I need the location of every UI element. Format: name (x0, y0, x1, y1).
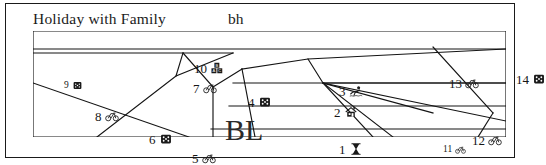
bicycle-icon (455, 144, 466, 155)
svg-text:C: C (218, 68, 221, 73)
region-number: 5 (192, 152, 199, 165)
region-6[interactable]: 6 (149, 132, 173, 146)
bicycle-icon (105, 109, 119, 123)
region-3[interactable]: 3 (339, 84, 363, 98)
region-8[interactable]: 8 (95, 109, 119, 123)
region-number: 12 (472, 134, 485, 147)
blocks-icon: ACB (210, 61, 224, 75)
region-number: 11 (443, 145, 452, 155)
map-title-row: Holiday with Family bh (33, 8, 503, 29)
region-12[interactable]: 12 (472, 133, 502, 147)
region-1[interactable]: 1 (339, 142, 363, 156)
bicycle-icon (488, 133, 502, 147)
region-10[interactable]: 10ACB (194, 61, 224, 75)
region-4[interactable]: 4 (248, 95, 272, 109)
svg-text:A: A (213, 68, 216, 73)
dice-icon (532, 72, 546, 86)
outer-frame: Holiday with Family bh BL 12345678910ACB… (5, 3, 515, 158)
region-number: 10 (194, 62, 207, 75)
dice-icon (72, 80, 83, 91)
svg-text:B: B (215, 63, 218, 68)
region-5[interactable]: 5 (192, 151, 216, 165)
region-number: 2 (334, 106, 341, 119)
region-number: 3 (339, 85, 346, 98)
region-7[interactable]: 7 (193, 81, 217, 95)
bicycle-icon (465, 76, 479, 90)
region-13[interactable]: 13 (449, 76, 479, 90)
hourglass-icon (349, 142, 363, 156)
bicycle-icon (202, 151, 216, 165)
map-subtitle: bh (228, 10, 244, 28)
region-2[interactable]: 2 (334, 105, 358, 119)
map-area[interactable]: BL 12345678910ACB11121314 (33, 31, 506, 137)
region-number: 13 (449, 77, 462, 90)
dice-icon (258, 95, 272, 109)
region-number: 7 (193, 82, 200, 95)
center-district-label: BL (225, 115, 263, 145)
region-9[interactable]: 9 (64, 80, 83, 91)
region-number: 8 (95, 110, 102, 123)
map-title: Holiday with Family (33, 10, 166, 28)
dice-icon (159, 132, 173, 146)
region-number: 4 (248, 96, 255, 109)
bicycle-icon (203, 81, 217, 95)
region-number: 6 (149, 133, 156, 146)
region-number: 9 (64, 81, 69, 91)
swimmer-icon (349, 84, 363, 98)
region-number: 14 (516, 73, 529, 86)
region-number: 1 (339, 143, 346, 156)
region-14[interactable]: 14 (516, 72, 546, 86)
house-icon (344, 105, 358, 119)
region-11[interactable]: 11 (443, 144, 466, 155)
screenshot-root: Holiday with Family bh BL 12345678910ACB… (0, 0, 521, 162)
